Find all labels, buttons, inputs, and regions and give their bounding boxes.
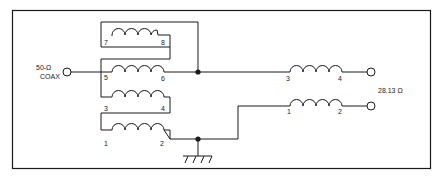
output-terminal-top [367, 68, 375, 76]
schematic-canvas [0, 0, 440, 180]
input-label-impedance: 50-Ω [36, 64, 51, 71]
coil-5-6 [112, 66, 164, 73]
diagram-border [13, 11, 431, 169]
coil-3-4 [112, 91, 164, 97]
output-impedance-label: 28.13 Ω [378, 87, 403, 94]
bus-lower [198, 106, 290, 139]
winding-7-8 [101, 22, 198, 72]
pin-label-5: 5 [104, 74, 108, 81]
coil-right-3-4 [290, 66, 342, 73]
right-pin-label-2: 2 [338, 108, 342, 115]
pin-label-1: 1 [104, 140, 108, 147]
pin-label-4: 4 [161, 105, 165, 112]
winding-5-6 [71, 47, 198, 72]
pin-label-6: 6 [161, 75, 165, 82]
input-label-coax: COAX [40, 73, 60, 80]
right-pin-label-1: 1 [287, 108, 291, 115]
right-pin-label-4: 4 [338, 75, 342, 82]
right-pin-label-3: 3 [286, 75, 290, 82]
coil-right-1-2 [290, 100, 342, 106]
junction-dot-upper [195, 69, 200, 74]
ground-icon [183, 139, 212, 163]
input-terminal [63, 68, 71, 76]
winding-3-4 [101, 72, 170, 130]
pin-label-3: 3 [104, 105, 108, 112]
pin-label-7: 7 [104, 39, 108, 46]
pin-label-8: 8 [161, 39, 165, 46]
output-terminal-bottom [367, 102, 375, 110]
pin-label-2: 2 [160, 140, 164, 147]
winding-1-2 [112, 124, 198, 140]
coil-7-8 [112, 29, 157, 36]
junction-dot-lower [195, 136, 200, 141]
coil-1-2 [112, 124, 164, 131]
